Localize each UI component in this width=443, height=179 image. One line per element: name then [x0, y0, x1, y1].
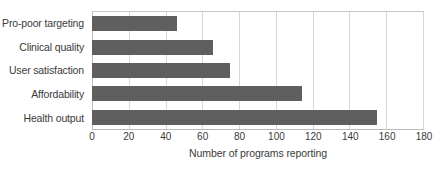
category-label-clinical-quality: Clinical quality — [19, 41, 88, 53]
bar-affordability — [92, 86, 302, 101]
bar-row — [92, 86, 423, 101]
bar-row — [92, 40, 423, 55]
category-label-pro-poor-targeting: Pro-poor targeting — [2, 17, 88, 29]
bar-series — [92, 12, 423, 129]
category-axis: Pro-poor targeting Clinical quality User… — [0, 11, 88, 130]
x-tick-label-60: 60 — [197, 131, 208, 143]
bar-row — [92, 16, 423, 31]
x-tick-label-40: 40 — [160, 131, 171, 143]
bar-row — [92, 63, 423, 78]
bar-row — [92, 110, 423, 125]
x-tick-label-20: 20 — [123, 131, 134, 143]
x-tick-label-80: 80 — [234, 131, 245, 143]
x-tick-label-160: 160 — [379, 131, 396, 143]
bar-health-output — [92, 110, 377, 125]
plot-area — [92, 11, 424, 130]
x-tick-label-180: 180 — [416, 131, 433, 143]
gridline-180 — [423, 12, 424, 129]
bar-clinical-quality — [92, 40, 213, 55]
x-tick-label-0: 0 — [89, 131, 95, 143]
bar-chart-figure: Pro-poor targeting Clinical quality User… — [0, 0, 443, 179]
bar-pro-poor-targeting — [92, 16, 177, 31]
value-axis: 020406080100120140160180 — [92, 131, 424, 145]
x-tick-label-100: 100 — [268, 131, 285, 143]
x-tick-label-140: 140 — [342, 131, 359, 143]
x-tick-label-120: 120 — [305, 131, 322, 143]
value-axis-title: Number of programs reporting — [92, 147, 424, 160]
category-label-user-satisfaction: User satisfaction — [9, 64, 88, 76]
bar-user-satisfaction — [92, 63, 230, 78]
category-label-affordability: Affordability — [31, 88, 88, 100]
category-label-health-output: Health output — [23, 112, 88, 124]
